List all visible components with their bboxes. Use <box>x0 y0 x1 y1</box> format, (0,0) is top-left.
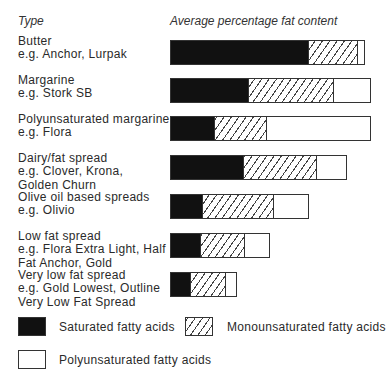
stacked-bar <box>170 40 365 65</box>
spread-type: Polyunsaturated margarine <box>18 113 170 126</box>
spread-type: Olive oil based spreads <box>18 191 150 204</box>
legend-mono-label: Monounsaturated fatty acids <box>227 320 386 334</box>
saturated-segment <box>171 156 243 179</box>
monounsaturated-segment <box>214 117 267 140</box>
stacked-bar <box>170 78 371 103</box>
stacked-bar <box>170 272 237 297</box>
stacked-bar <box>170 233 270 258</box>
stacked-bar <box>170 116 371 141</box>
saturated-segment <box>171 195 202 218</box>
saturated-segment <box>171 41 308 64</box>
legend-saturated-swatch <box>18 317 46 336</box>
spread-examples: e.g. Olivio <box>18 204 150 217</box>
monounsaturated-segment <box>190 273 226 296</box>
legend-mono-swatch <box>185 317 213 336</box>
polyunsaturated-segment <box>267 117 370 140</box>
spread-type: Dairy/fat spread <box>18 152 123 165</box>
legend-poly-swatch <box>18 350 46 369</box>
legend-poly-label: Polyunsaturated fatty acids <box>59 353 211 367</box>
spread-examples: e.g. Stork SB <box>18 87 93 100</box>
polyunsaturated-segment <box>245 234 269 257</box>
saturated-segment <box>171 79 248 102</box>
row-label: Margarinee.g. Stork SB <box>18 74 93 101</box>
monounsaturated-segment <box>248 79 334 102</box>
monounsaturated-segment <box>308 41 358 64</box>
type-column-header: Type <box>18 14 44 28</box>
stacked-bar <box>170 155 347 180</box>
polyunsaturated-segment <box>358 41 364 64</box>
row-label: Low fat spreade.g. Flora Extra Light, Ha… <box>18 230 166 270</box>
polyunsaturated-segment <box>317 156 346 179</box>
spread-type: Butter <box>18 35 127 48</box>
spread-examples: e.g. Clover, Krona, <box>18 165 123 178</box>
row-label: Olive oil based spreadse.g. Olivio <box>18 191 150 218</box>
monounsaturated-segment <box>200 234 246 257</box>
row-label: Dairy/fat spreade.g. Clover, Krona,Golde… <box>18 152 123 192</box>
spread-examples: e.g. Gold Lowest, Outline <box>18 282 160 295</box>
row-label: Very low fat spreade.g. Gold Lowest, Out… <box>18 269 160 309</box>
row-label: Buttere.g. Anchor, Lurpak <box>18 35 127 62</box>
saturated-segment <box>171 117 214 140</box>
spread-type: Margarine <box>18 74 93 87</box>
legend-saturated-label: Saturated fatty acids <box>59 320 175 334</box>
spread-type: Low fat spread <box>18 230 166 243</box>
fat-content-column-header: Average percentage fat content <box>170 14 337 28</box>
polyunsaturated-segment <box>334 79 370 102</box>
monounsaturated-segment <box>202 195 274 218</box>
spread-type: Very low fat spread <box>18 269 160 282</box>
monounsaturated-segment <box>243 156 317 179</box>
spread-examples: e.g. Anchor, Lurpak <box>18 48 127 61</box>
row-label: Polyunsaturated margarinee.g. Flora <box>18 113 170 140</box>
spread-examples: Very Low Fat Spread <box>18 296 160 309</box>
saturated-segment <box>171 273 190 296</box>
stacked-bar <box>170 194 309 219</box>
spread-examples: e.g. Flora Extra Light, Half <box>18 243 166 256</box>
spread-examples: e.g. Flora <box>18 126 170 139</box>
polyunsaturated-segment <box>226 273 236 296</box>
saturated-segment <box>171 234 200 257</box>
polyunsaturated-segment <box>274 195 308 218</box>
